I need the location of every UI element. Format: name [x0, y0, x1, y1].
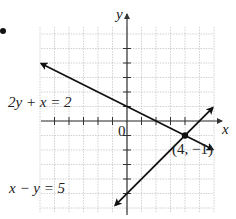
- axes: [41, 14, 222, 215]
- line-label-2y-plus-x: 2y + x = 2: [8, 95, 72, 110]
- y-axis-label: y: [116, 7, 123, 22]
- origin-label: 0: [118, 124, 126, 139]
- intersection-label: (4, −1): [172, 142, 213, 157]
- line-label-x-minus-y: x − y = 5: [9, 181, 65, 196]
- x-axis-label: x: [222, 122, 229, 137]
- intersection-point: [182, 132, 188, 138]
